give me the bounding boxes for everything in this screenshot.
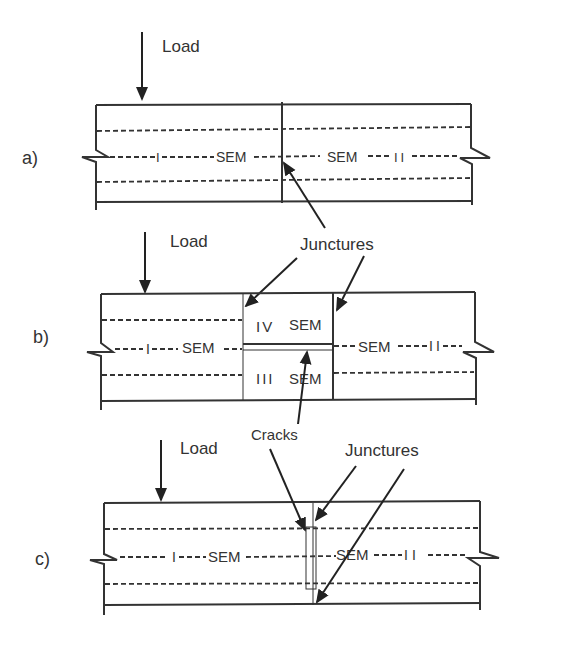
segment-roman: I: [172, 549, 176, 565]
panel-c: Load c) Junctures I SEM SEM II: [35, 439, 499, 615]
panel-label: c): [35, 549, 50, 569]
load-label: Load: [170, 232, 208, 251]
panel-a: Load a) I SEM SEM II: [22, 32, 490, 228]
segment-roman: II: [394, 150, 407, 165]
cracks-label: Cracks: [251, 426, 298, 443]
juncture-pointer-arrow-icon: [284, 163, 325, 228]
segment-roman: III: [256, 370, 275, 387]
junctures-label: Junctures: [300, 235, 374, 254]
segment-label: SEM: [216, 149, 246, 165]
diagram-canvas: Load a) I SEM SEM II Load b) Junctures: [0, 0, 563, 651]
segment-roman: I: [156, 150, 160, 165]
junctures-label: Junctures: [345, 441, 419, 460]
cracks-pointer-arrow-icon: [270, 449, 305, 530]
segment-label: SEM: [327, 149, 357, 165]
segment-roman: II: [404, 547, 420, 563]
panel-label: a): [22, 148, 38, 168]
segment-label: SEM: [358, 338, 391, 355]
segment-label: SEM: [208, 548, 241, 565]
juncture-pointer-arrow-icon: [316, 466, 356, 520]
panel-label: b): [33, 327, 49, 347]
load-label: Load: [180, 439, 218, 458]
cracks-pointer-arrow-icon: [298, 352, 307, 424]
juncture-pointer-arrow-icon: [317, 469, 404, 602]
segment-roman: II: [429, 338, 443, 354]
segment-label: SEM: [289, 316, 322, 333]
segment-roman: IV: [256, 318, 274, 335]
juncture-pointer-arrow-icon: [337, 256, 364, 310]
panel-b: Load b) Junctures IV SEM III SEM I SEM S…: [33, 232, 494, 443]
crack-zone: [306, 527, 316, 589]
segment-roman: I: [146, 341, 150, 357]
load-label: Load: [162, 37, 200, 56]
segment-label: SEM: [182, 339, 215, 356]
juncture-pointer-arrow-icon: [246, 258, 297, 306]
